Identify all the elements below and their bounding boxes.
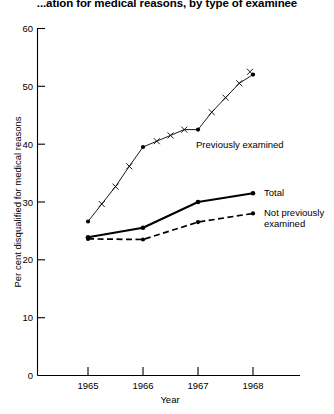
y-tick-label-60: 60 [22,23,33,34]
x-axis-title: Year [160,394,179,405]
data-point-previously-1966 [141,145,145,149]
y-tick-label-0: 0 [28,370,33,381]
y-tick-label-30: 30 [22,197,33,208]
y-tick-label-10: 10 [22,312,33,323]
label-previously-examined: Previously examined [196,139,284,150]
data-point-not-previously-1965 [86,237,90,241]
label-not-previously-examined-line2: examined [264,218,305,229]
y-tick-label-50: 50 [22,81,33,92]
data-point-total-1968 [251,191,256,196]
data-point-not-previously-1966 [141,237,145,241]
data-point-previously-1965 [86,219,90,223]
x-tick-label-1965: 1965 [77,380,98,391]
label-total: Total [264,187,284,198]
label-not-previously-examined-line1: Not previously [264,207,324,218]
y-axis-title: Per cent disqualified for medical reason… [12,116,23,287]
data-point-total-1966 [141,225,146,230]
data-point-total-1967 [196,200,201,205]
y-tick-label-40: 40 [22,139,33,150]
chart-figure: ...ation for medical reasons, by type of… [0,0,334,414]
chart-plot-area: 60 50 40 30 20 10 0 1965 1966 1967 1968 … [0,0,334,414]
x-tick-label-1967: 1967 [187,380,208,391]
data-point-not-previously-1968 [251,211,255,215]
data-point-previously-1967 [196,128,200,132]
y-axis [38,28,46,376]
x-tick-label-1966: 1966 [132,380,153,391]
x-axis [38,367,301,376]
series-total [86,191,256,240]
y-tick-label-20: 20 [22,254,33,265]
data-point-not-previously-1967 [196,220,200,224]
x-marker-group [99,69,253,207]
x-tick-label-1968: 1968 [242,380,263,391]
